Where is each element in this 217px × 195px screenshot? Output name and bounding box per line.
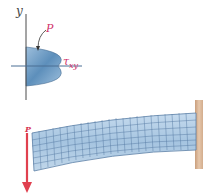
load-label-top: P (46, 22, 53, 35)
diagram-canvas (0, 0, 217, 195)
load-arrow (22, 133, 32, 193)
cantilever-beam (32, 113, 196, 171)
tau-subscript: xy (69, 61, 78, 70)
p-pointer-arrow (38, 30, 46, 48)
shear-stress-label: τxy (63, 55, 78, 70)
load-label-arrow: P (25, 124, 31, 134)
y-axis-label: y (16, 4, 23, 18)
